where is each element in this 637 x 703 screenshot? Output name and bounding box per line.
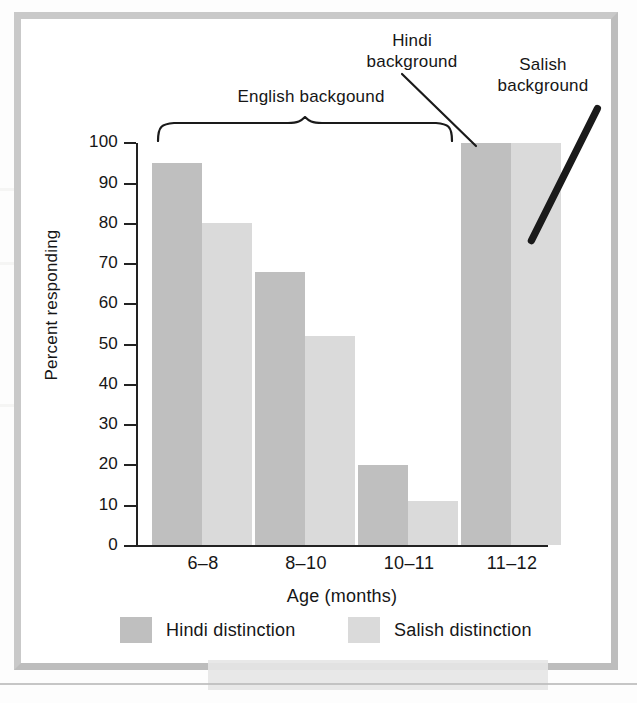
bar-hindi-11-12 <box>461 143 511 545</box>
chart-legend: Hindi distinction Salish distinction <box>120 614 540 648</box>
y-tick-label-20: 20 <box>78 455 118 472</box>
x-tick-label-8-10: 8–10 <box>246 553 366 574</box>
x-axis-title: Age (months) <box>136 586 548 607</box>
hindi-callout-line1: Hindi <box>392 31 432 50</box>
y-tick-100 <box>124 142 136 144</box>
y-axis-line <box>136 143 138 547</box>
english-background-label: English backgound <box>196 86 426 107</box>
bar-group-8-10 <box>255 141 357 545</box>
legend-swatch-salish <box>348 617 380 643</box>
legend-item-hindi: Hindi distinction <box>120 614 295 646</box>
y-tick-label-30: 30 <box>78 415 118 432</box>
scanned-page: 100 90 80 70 60 50 40 30 20 10 0 Percent… <box>0 0 637 703</box>
y-tick-90 <box>124 183 136 185</box>
bar-salish-8-10 <box>305 336 355 545</box>
y-tick-label-80: 80 <box>78 214 118 231</box>
y-axis-title: Percent responding <box>42 205 62 405</box>
y-tick-60 <box>124 303 136 305</box>
y-tick-40 <box>124 384 136 386</box>
bar-hindi-6-8 <box>152 163 202 545</box>
bar-group-10-11 <box>358 141 460 545</box>
y-tick-10 <box>124 505 136 507</box>
salish-callout-line2: background <box>498 76 589 95</box>
bar-salish-6-8 <box>202 223 252 545</box>
y-tick-label-50: 50 <box>78 335 118 352</box>
bar-hindi-10-11 <box>358 465 408 545</box>
bar-hindi-8-10 <box>255 272 305 545</box>
x-tick-label-6-8: 6–8 <box>143 553 263 574</box>
legend-label-hindi: Hindi distinction <box>166 620 295 641</box>
bar-group-6-8 <box>152 141 254 545</box>
y-tick-label-10: 10 <box>78 496 118 513</box>
x-tick-label-11-12: 11–12 <box>452 553 572 574</box>
hindi-callout-line2: background <box>367 52 458 71</box>
y-tick-label-0: 0 <box>78 536 118 553</box>
x-axis-line <box>136 545 548 547</box>
legend-item-salish: Salish distinction <box>348 614 532 646</box>
y-tick-label-40: 40 <box>78 375 118 392</box>
bar-chart: 100 90 80 70 60 50 40 30 20 10 0 Percent… <box>0 0 637 703</box>
legend-label-salish: Salish distinction <box>394 620 532 641</box>
y-tick-label-100: 100 <box>78 133 118 150</box>
y-tick-50 <box>124 344 136 346</box>
page-edge-rule <box>0 683 637 685</box>
y-tick-30 <box>124 424 136 426</box>
y-tick-0 <box>124 545 136 547</box>
cut-off-caption-band <box>208 660 548 690</box>
hindi-background-callout: Hindi background <box>352 30 472 72</box>
salish-callout-leader-line <box>505 102 637 254</box>
bar-salish-10-11 <box>408 501 458 545</box>
legend-swatch-hindi <box>120 617 152 643</box>
y-tick-label-90: 90 <box>78 174 118 191</box>
y-tick-20 <box>124 464 136 466</box>
y-tick-label-70: 70 <box>78 254 118 271</box>
y-tick-80 <box>124 223 136 225</box>
x-tick-label-10-11: 10–11 <box>349 553 469 574</box>
y-tick-70 <box>124 263 136 265</box>
y-tick-label-60: 60 <box>78 294 118 311</box>
salish-callout-line1: Salish <box>519 55 567 74</box>
hindi-callout-leader-line <box>400 72 490 150</box>
salish-background-callout: Salish background <box>478 54 608 96</box>
